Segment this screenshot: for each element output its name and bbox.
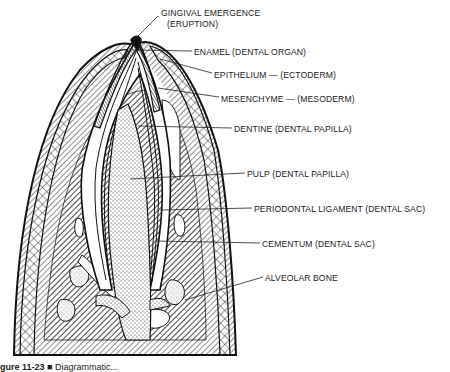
- label-eruption: (ERUPTION): [167, 19, 218, 29]
- label-alveolar-bone: ALVEOLAR BONE: [265, 273, 338, 283]
- label-mesenchyme: MESENCHYME — (MESODERM): [221, 94, 355, 104]
- label-cementum: CEMENTUM (DENTAL SAC): [262, 239, 375, 249]
- figure-caption: gure 11-23 ■ Diagrammatic...: [0, 362, 118, 372]
- label-epithelium: EPITHELIUM — (ECTODERM): [214, 70, 336, 80]
- caption-text: Diagrammatic...: [55, 362, 118, 372]
- label-enamel: ENAMEL (DENTAL ORGAN): [194, 47, 306, 57]
- figure-number: gure 11-23: [0, 362, 45, 372]
- label-dentine: DENTINE (DENTAL PAPILLA): [234, 124, 352, 134]
- label-periodontal-ligament: PERIODONTAL LIGAMENT (DENTAL SAC): [254, 204, 425, 214]
- caption-marker-icon: ■: [47, 362, 52, 372]
- leader-gingival: [137, 16, 158, 37]
- label-gingival-emergence: GINGIVAL EMERGENCE: [161, 8, 260, 18]
- label-pulp: PULP (DENTAL PAPILLA): [247, 169, 349, 179]
